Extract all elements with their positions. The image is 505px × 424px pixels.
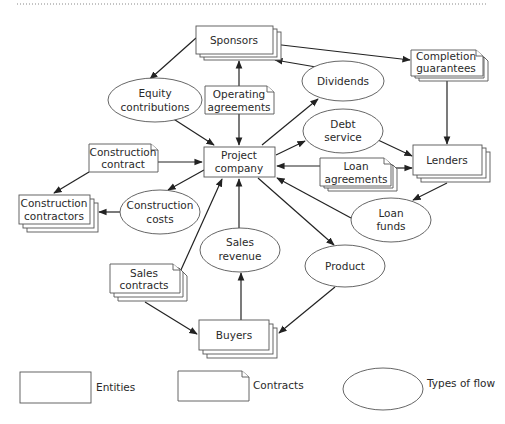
edge-sponsors-completion <box>273 44 410 60</box>
legend-entities-label: Entities <box>96 381 135 393</box>
dividends-label: Dividends <box>317 75 369 87</box>
contract-loan-agreements: Loan agreements <box>320 158 397 191</box>
legend-contract-swatch <box>178 371 249 401</box>
flow-debt-service: Debt service <box>303 109 383 153</box>
contract-completion-guarantees: Completion guarantees <box>411 50 488 81</box>
salescon-label-line1: Sales <box>130 267 158 279</box>
cc-label-line1: Construction <box>90 146 157 158</box>
costs-label-line2: costs <box>146 213 173 225</box>
edge-lenders-loanfunds <box>413 183 447 200</box>
debt-label-line2: service <box>324 131 362 143</box>
costs-label-line1: Construction <box>127 199 194 211</box>
flow-sales-revenue: Sales revenue <box>200 228 280 272</box>
edge-product-buyers <box>279 287 335 333</box>
project-label-line2: company <box>215 162 263 174</box>
salesrev-label-line2: revenue <box>219 250 262 262</box>
edge-dividends-sponsors <box>275 60 316 67</box>
edge-equity-project <box>172 118 214 145</box>
entity-construction-contractors: Construction contractors <box>19 195 98 232</box>
entity-lenders: Lenders <box>413 145 490 182</box>
equity-label-line1: Equity <box>138 87 171 99</box>
contract-sales-contracts: Sales contracts <box>110 264 187 301</box>
contractors-label-line2: contractors <box>24 210 84 222</box>
edge-project-costs <box>168 170 204 190</box>
contract-construction-contract: Construction contract <box>89 144 158 172</box>
flow-dividends: Dividends <box>302 61 384 101</box>
operating-label-line2: agreements <box>207 101 270 113</box>
loanfunds-label-line2: funds <box>376 220 405 232</box>
salescon-label-line2: contracts <box>119 279 168 291</box>
project-finance-diagram: Sponsors Project company Lenders Constru… <box>0 0 505 424</box>
entity-project-company: Project company <box>204 147 275 177</box>
legend-flows: Types of flow <box>343 368 495 410</box>
legend-entity-swatch <box>20 372 91 403</box>
project-label-line1: Project <box>221 149 257 161</box>
edge-salescon-buyers <box>145 302 197 334</box>
salesrev-label-line1: Sales <box>226 236 254 248</box>
debt-label-line1: Debt <box>330 118 355 130</box>
entity-buyers: Buyers <box>199 320 277 358</box>
edge-debtservice-lenders <box>378 140 412 156</box>
legend-contracts-label: Contracts <box>253 379 304 391</box>
lenders-label: Lenders <box>426 154 468 166</box>
legend-entities: Entities <box>20 372 135 403</box>
product-label: Product <box>325 260 365 272</box>
contract-operating-agreements: Operating agreements <box>205 86 274 114</box>
sponsors-label: Sponsors <box>210 34 258 46</box>
flow-construction-costs: Construction costs <box>120 190 200 234</box>
legend-flow-swatch <box>343 368 423 410</box>
flow-equity-contributions: Equity contributions <box>108 78 202 122</box>
flow-product: Product <box>305 245 385 287</box>
operating-label-line1: Operating <box>213 88 266 100</box>
completion-label-line2: guarantees <box>416 62 476 74</box>
edge-cc-contractors <box>54 172 89 193</box>
edge-sponsors-equity <box>150 38 196 79</box>
buyers-label: Buyers <box>216 329 252 341</box>
loanag-label-line1: Loan <box>343 160 368 172</box>
legend: Entities Contracts Types of flow <box>20 368 495 410</box>
entity-sponsors: Sponsors <box>196 26 281 60</box>
flow-loan-funds: Loan funds <box>351 198 431 242</box>
equity-label-line2: contributions <box>120 101 189 113</box>
legend-flows-label: Types of flow <box>426 377 495 389</box>
completion-label-line1: Completion <box>416 50 476 62</box>
edge-project-debtservice <box>276 141 305 155</box>
contractors-label-line1: Construction <box>21 197 88 209</box>
loanfunds-label-line1: Loan <box>378 207 403 219</box>
loanag-label-line2: agreements <box>324 173 387 185</box>
legend-contracts: Contracts <box>178 371 304 401</box>
cc-label-line2: contract <box>101 158 145 170</box>
